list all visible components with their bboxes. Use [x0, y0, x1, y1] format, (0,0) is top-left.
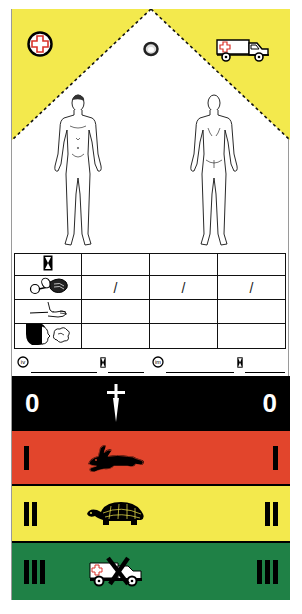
hourglass-time-icon	[100, 357, 106, 368]
triage-band-III-minor[interactable]	[12, 543, 290, 600]
category-bars-right	[265, 502, 278, 526]
category-bars-left	[24, 502, 37, 526]
eyelet-hole-icon	[143, 41, 159, 57]
im-field[interactable]	[166, 366, 234, 373]
triage-tag: / / /	[11, 9, 289, 600]
ambulance-icon	[215, 37, 271, 63]
category-label-left: 0	[25, 390, 39, 416]
turtle-icon	[85, 500, 147, 528]
back-body-figure[interactable]	[186, 94, 242, 250]
vitals-cell[interactable]	[82, 300, 150, 324]
red-cross-circle-icon	[27, 31, 53, 57]
iv-field[interactable]	[31, 366, 97, 373]
front-body-figure[interactable]	[50, 94, 106, 250]
table-row-time	[15, 254, 286, 276]
blood-pressure-cuff-icon	[15, 276, 82, 300]
category-label-right: 0	[263, 390, 277, 416]
svg-text:im: im	[155, 359, 161, 365]
vitals-cell[interactable]	[150, 300, 218, 324]
category-bars-right	[273, 446, 278, 470]
hourglass-time-icon	[15, 254, 82, 276]
iv-icon: iv	[17, 356, 29, 368]
iv-time-field[interactable]	[108, 366, 144, 373]
triage-band-0-deceased[interactable]: 0 0	[12, 376, 290, 429]
breathing-face-icon	[15, 324, 82, 349]
triage-band-II-delayed[interactable]	[12, 486, 290, 543]
vitals-cell[interactable]	[218, 324, 286, 349]
svg-text:iv: iv	[21, 359, 25, 365]
hourglass-time-icon	[237, 357, 243, 368]
vitals-cell[interactable]	[218, 300, 286, 324]
triage-band-I-immediate[interactable]	[12, 429, 290, 486]
vitals-cell[interactable]	[150, 254, 218, 276]
vitals-cell[interactable]	[82, 254, 150, 276]
pulse-hand-icon	[15, 300, 82, 324]
table-row-blood-pressure: / / /	[15, 276, 286, 300]
vitals-cell[interactable]	[218, 254, 286, 276]
crossed-ambulance-icon	[88, 556, 144, 588]
table-row-breathing	[15, 324, 286, 349]
table-row-pulse	[15, 300, 286, 324]
dagger-cross-icon	[105, 383, 127, 423]
category-bars-left	[24, 560, 45, 584]
rabbit-icon	[84, 442, 148, 474]
vitals-table: / / /	[14, 253, 286, 349]
vitals-cell[interactable]: /	[82, 276, 150, 300]
medication-line: iv im	[12, 352, 290, 374]
category-bars-left	[24, 446, 29, 470]
vitals-cell[interactable]: /	[150, 276, 218, 300]
vitals-cell[interactable]: /	[218, 276, 286, 300]
im-icon: im	[152, 356, 164, 368]
category-bars-right	[257, 560, 278, 584]
vitals-cell[interactable]	[82, 324, 150, 349]
im-time-field[interactable]	[245, 366, 285, 373]
vitals-cell[interactable]	[150, 324, 218, 349]
